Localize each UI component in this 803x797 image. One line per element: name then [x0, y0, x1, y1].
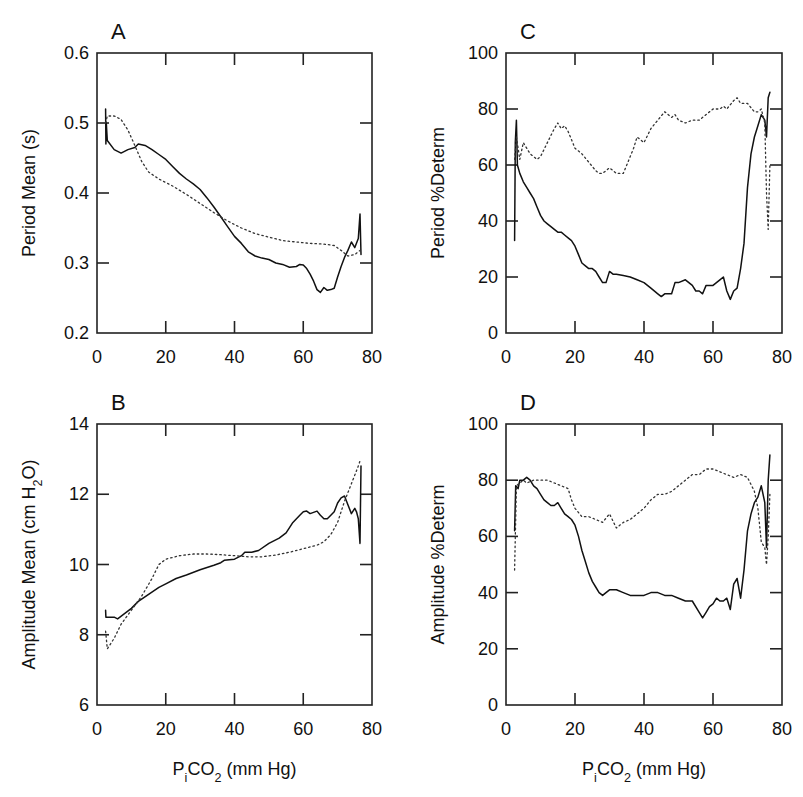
y-tick-label: 12 — [69, 484, 89, 504]
panel-title: D — [520, 390, 536, 415]
series-solid-line — [515, 455, 770, 618]
panel-b-amplitude-mean: B02040608068101214Amplitude Mean (cm H2O… — [19, 390, 382, 785]
plot-frame — [97, 53, 372, 333]
y-tick-label: 0.2 — [64, 323, 89, 343]
series-dotted-line — [515, 469, 770, 570]
x-tick-label: 60 — [293, 719, 313, 739]
y-tick-label: 40 — [478, 211, 498, 231]
y-tick-label: 8 — [79, 625, 89, 645]
y-tick-label: 0 — [488, 695, 498, 715]
y-tick-label: 80 — [478, 470, 498, 490]
x-tick-label: 20 — [156, 347, 176, 367]
x-tick-label: 60 — [293, 347, 313, 367]
figure: A0204060800.20.30.40.50.6Period Mean (s)… — [0, 0, 803, 797]
x-tick-label: 40 — [634, 347, 654, 367]
x-tick-label: 0 — [501, 347, 511, 367]
series-dotted-line — [515, 98, 770, 230]
x-tick-label: 40 — [634, 719, 654, 739]
x-tick-label: 40 — [224, 719, 244, 739]
x-tick-label: 80 — [362, 347, 382, 367]
y-tick-label: 6 — [79, 695, 89, 715]
x-tick-label: 20 — [565, 719, 585, 739]
series-solid-line — [515, 92, 770, 299]
panel-title: B — [111, 390, 126, 415]
y-tick-label: 0.3 — [64, 253, 89, 273]
y-tick-label: 10 — [69, 555, 89, 575]
plot-frame — [506, 424, 782, 705]
y-axis-label: Period Mean (s) — [19, 129, 39, 257]
x-tick-label: 0 — [92, 719, 102, 739]
panel-title: A — [111, 19, 126, 44]
panel-a-period-mean: A0204060800.20.30.40.50.6Period Mean (s) — [19, 19, 382, 367]
series-solid-line — [106, 109, 361, 292]
series-dotted-line — [106, 461, 360, 649]
x-axis-label: PiCO2 (mm Hg) — [582, 759, 706, 785]
y-tick-label: 80 — [478, 99, 498, 119]
y-axis-label: Amplitude %Determ — [428, 484, 448, 644]
y-tick-label: 20 — [478, 639, 498, 659]
x-axis-label: PiCO2 (mm Hg) — [173, 759, 297, 785]
y-tick-label: 60 — [478, 155, 498, 175]
panel-c-period-determinism: C020406080020406080100Period %Determ — [428, 19, 792, 367]
y-tick-label: 100 — [468, 414, 498, 434]
y-tick-label: 20 — [478, 267, 498, 287]
y-tick-label: 40 — [478, 583, 498, 603]
plot-frame — [506, 53, 782, 333]
y-tick-label: 14 — [69, 414, 89, 434]
y-axis-label: Amplitude Mean (cm H2O) — [19, 459, 45, 669]
y-tick-label: 0.6 — [64, 43, 89, 63]
x-tick-label: 60 — [703, 347, 723, 367]
x-tick-label: 80 — [772, 347, 792, 367]
panel-title: C — [520, 19, 536, 44]
x-tick-label: 40 — [224, 347, 244, 367]
x-tick-label: 0 — [501, 719, 511, 739]
x-tick-label: 80 — [362, 719, 382, 739]
y-tick-label: 100 — [468, 43, 498, 63]
x-tick-label: 0 — [92, 347, 102, 367]
panel-d-amplitude-determinism: D020406080020406080100Amplitude %DetermP… — [428, 390, 792, 785]
plot-frame — [97, 424, 372, 705]
y-tick-label: 0 — [488, 323, 498, 343]
y-tick-label: 0.4 — [64, 183, 89, 203]
y-tick-label: 0.5 — [64, 113, 89, 133]
x-tick-label: 60 — [703, 719, 723, 739]
y-tick-label: 60 — [478, 526, 498, 546]
x-tick-label: 20 — [156, 719, 176, 739]
y-axis-label: Period %Determ — [428, 127, 448, 259]
x-tick-label: 80 — [772, 719, 792, 739]
x-tick-label: 20 — [565, 347, 585, 367]
figure-canvas: A0204060800.20.30.40.50.6Period Mean (s)… — [0, 0, 803, 797]
